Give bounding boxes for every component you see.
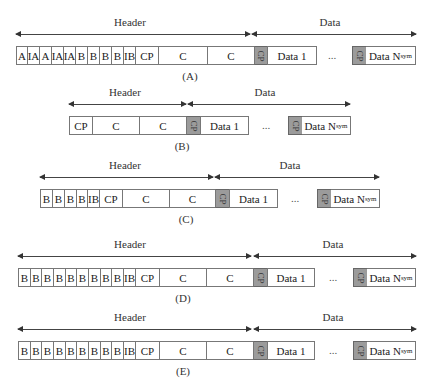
cyclic-prefix-cell: CP <box>353 268 368 287</box>
data-span-arrow <box>215 177 379 178</box>
symbol-cell-data-1: Data 1 <box>267 46 317 65</box>
data-label: Data <box>323 238 344 250</box>
data-span-arrow <box>188 104 350 105</box>
symbol-cell-c: C <box>169 189 216 208</box>
header-span-arrow <box>18 329 251 330</box>
ellipsis: ... <box>291 192 299 204</box>
data-label: Data <box>323 311 344 323</box>
cyclic-prefix-cell: CP <box>254 46 268 65</box>
ellipsis: ... <box>329 344 337 356</box>
symbol-cell-cp: CP <box>135 46 159 65</box>
cp-rotated-label: CP <box>290 120 300 131</box>
cp-rotated-label: CP <box>255 345 265 356</box>
header-span-arrow <box>16 34 250 35</box>
header-span-arrow <box>18 256 251 257</box>
cyclic-prefix-cell: CP <box>253 268 268 287</box>
symbol-cell-data-1: Data 1 <box>267 341 315 360</box>
cyclic-prefix-cell: CP <box>317 189 332 208</box>
cp-rotated-label: CP <box>217 193 227 204</box>
symbol-cell-data-1: Data 1 <box>267 268 315 287</box>
symbol-cell-data-nsym: Data Nsym <box>367 341 416 360</box>
cp-rotated-label: CP <box>354 50 364 61</box>
symbol-cell-c: C <box>139 116 187 135</box>
symbol-cell-data-nsym: Data Nsym <box>366 46 416 65</box>
header-span-arrow <box>69 104 186 105</box>
ellipsis: ... <box>262 119 270 131</box>
symbol-cell-c: C <box>159 268 207 287</box>
symbol-cell-cp: CP <box>135 341 160 360</box>
ellipsis: ... <box>329 271 337 283</box>
header-span-arrow <box>40 177 213 178</box>
cp-rotated-label: CP <box>355 272 365 283</box>
ellipsis: ... <box>328 49 336 61</box>
symbol-cell-cp: CP <box>69 116 93 135</box>
symbol-cell-data-nsym: Data Nsym <box>331 189 380 208</box>
cyclic-prefix-cell: CP <box>215 189 230 208</box>
header-label: Header <box>109 159 141 171</box>
cp-rotated-label: CP <box>255 272 265 283</box>
symbol-cell-c: C <box>207 46 255 65</box>
nsym-subscript: sym <box>365 195 377 203</box>
cyclic-prefix-cell: CP <box>353 341 368 360</box>
cyclic-prefix-cell: CP <box>253 341 268 360</box>
symbol-cell-c: C <box>92 116 140 135</box>
frame-caption: (B) <box>175 140 190 152</box>
data-label: Data <box>320 16 341 28</box>
frame-caption: (C) <box>179 213 194 225</box>
cp-rotated-label: CP <box>355 345 365 356</box>
data-label: Data <box>280 159 301 171</box>
frame-caption: (D) <box>175 292 190 304</box>
header-label: Header <box>114 311 146 323</box>
symbol-cell-data-nsym: Data Nsym <box>367 268 416 287</box>
header-label: Header <box>114 238 146 250</box>
cp-rotated-label: CP <box>319 193 329 204</box>
symbol-cell-c: C <box>159 341 207 360</box>
nsym-subscript: sym <box>401 274 413 282</box>
cp-rotated-label: CP <box>256 50 266 61</box>
data-span-arrow <box>254 256 416 257</box>
frame-caption: (A) <box>182 70 197 82</box>
symbol-cell-data-nsym: Data Nsym <box>302 116 351 135</box>
nsym-subscript: sym <box>336 122 348 130</box>
symbol-cell-cp: CP <box>135 268 160 287</box>
symbol-cell-data-1: Data 1 <box>200 116 249 135</box>
cyclic-prefix-cell: CP <box>186 116 201 135</box>
data-span-arrow <box>254 329 416 330</box>
symbol-cell-c: C <box>206 341 254 360</box>
cp-rotated-label: CP <box>188 120 198 131</box>
data-label: Data <box>255 86 276 98</box>
symbol-cell-data-1: Data 1 <box>229 189 278 208</box>
nsym-subscript: sym <box>400 52 412 60</box>
data-span-arrow <box>252 34 416 35</box>
cyclic-prefix-cell: CP <box>288 116 303 135</box>
symbol-cell-c: C <box>158 46 208 65</box>
cyclic-prefix-cell: CP <box>352 46 367 65</box>
header-label: Header <box>114 16 146 28</box>
nsym-subscript: sym <box>401 347 413 355</box>
header-label: Header <box>109 86 141 98</box>
symbol-cell-c: C <box>122 189 170 208</box>
symbol-cell-c: C <box>206 268 254 287</box>
symbol-cell-cp: CP <box>99 189 123 208</box>
frame-caption: (E) <box>176 365 190 377</box>
